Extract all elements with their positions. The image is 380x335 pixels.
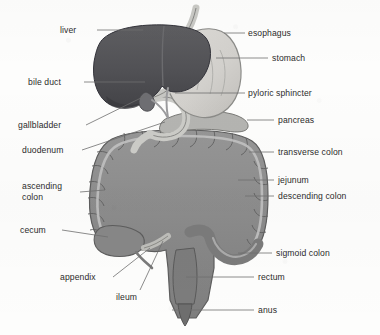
label-descending-colon: descending colon [278,191,347,202]
label-liver: liver [60,25,76,36]
label-pyloric-sphincter: pyloric sphincter [248,88,312,99]
label-rectum: rectum [258,272,285,283]
label-sigmoid-colon: sigmoid colon [276,248,330,259]
label-duodenum: duodenum [22,145,63,156]
leader-duodenum [82,122,165,150]
label-bile-duct: bile duct [28,77,61,88]
leader-appendix [113,248,150,277]
leader-cecum [62,230,108,237]
label-gallbladder: gallbladder [18,120,61,131]
digestive-system-figure: liver bile duct gallbladder duodenum asc… [0,0,380,335]
label-appendix: appendix [60,272,96,283]
leader-ileum [140,241,163,290]
label-transverse-colon: transverse colon [278,147,343,158]
label-anus: anus [258,305,277,316]
leader-gallbladder [86,95,147,125]
label-pancreas: pancreas [278,115,314,126]
label-esophagus: esophagus [248,28,291,39]
label-jejunum: jejunum [278,175,309,186]
leader-lines [0,0,380,335]
label-cecum: cecum [20,225,46,236]
label-ileum: ileum [116,292,137,303]
leader-ascending-colon [80,190,105,192]
label-ascending-colon: ascending colon [22,181,62,204]
label-stomach: stomach [272,53,305,64]
